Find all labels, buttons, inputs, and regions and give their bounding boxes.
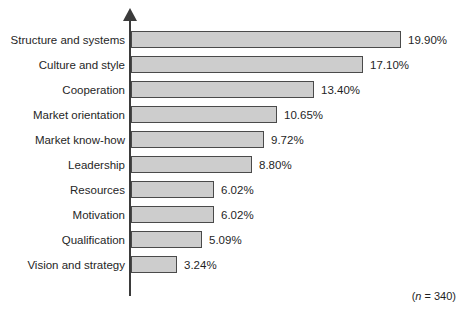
- bar-value-label: 13.40%: [321, 82, 360, 99]
- bar: [131, 131, 264, 148]
- bar-row: Vision and strategy3.24%: [0, 255, 468, 280]
- bar: [131, 256, 177, 273]
- bar-row: Market know-how9.72%: [0, 130, 468, 155]
- category-label: Qualification: [0, 232, 125, 249]
- bar: [131, 156, 252, 173]
- bar: [131, 31, 401, 48]
- sample-size-note: (n = 340): [412, 290, 456, 302]
- bar: [131, 81, 314, 98]
- bar: [131, 231, 202, 248]
- bar-value-label: 6.02%: [221, 207, 254, 224]
- category-label: Vision and strategy: [0, 257, 125, 274]
- bar-value-label: 6.02%: [221, 182, 254, 199]
- bar-row: Cooperation13.40%: [0, 80, 468, 105]
- bar-row: Structure and systems19.90%: [0, 30, 468, 55]
- bar-row: Market orientation10.65%: [0, 105, 468, 130]
- bar-value-label: 10.65%: [284, 107, 323, 124]
- category-label: Market know-how: [0, 132, 125, 149]
- category-label: Market orientation: [0, 107, 125, 124]
- bar-row: Resources6.02%: [0, 180, 468, 205]
- bar-value-label: 19.90%: [408, 32, 447, 49]
- bar-value-label: 9.72%: [271, 132, 304, 149]
- sample-size-text: = 340): [421, 290, 456, 302]
- bar-row: Motivation6.02%: [0, 205, 468, 230]
- bar: [131, 56, 363, 73]
- category-label: Culture and style: [0, 57, 125, 74]
- bar: [131, 206, 214, 223]
- category-label: Cooperation: [0, 82, 125, 99]
- bar-row: Qualification5.09%: [0, 230, 468, 255]
- bar: [131, 106, 277, 123]
- bar-value-label: 17.10%: [370, 57, 409, 74]
- category-label: Structure and systems: [0, 32, 125, 49]
- bar-value-label: 3.24%: [184, 257, 217, 274]
- category-label: Resources: [0, 182, 125, 199]
- bar: [131, 181, 214, 198]
- bar-value-label: 8.80%: [259, 157, 292, 174]
- bar-rows: Structure and systems19.90%Culture and s…: [0, 30, 468, 280]
- bar-row: Culture and style17.10%: [0, 55, 468, 80]
- category-label: Leadership: [0, 157, 125, 174]
- bar-row: Leadership8.80%: [0, 155, 468, 180]
- bar-chart: Structure and systems19.90%Culture and s…: [0, 0, 468, 312]
- category-label: Motivation: [0, 207, 125, 224]
- bar-value-label: 5.09%: [209, 232, 242, 249]
